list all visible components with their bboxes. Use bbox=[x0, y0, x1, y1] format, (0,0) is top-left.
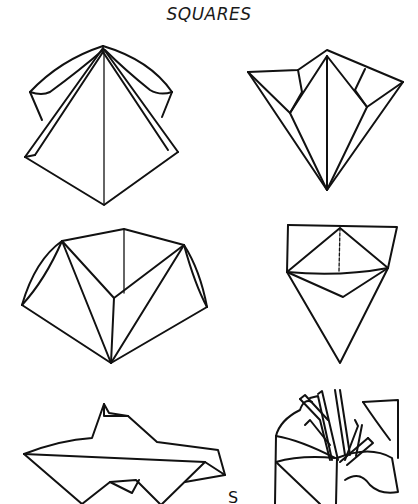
origami-diagrams bbox=[0, 0, 418, 504]
partial-label: S bbox=[228, 488, 238, 504]
figure-2-kite-fold bbox=[248, 50, 403, 190]
figure-5-boat-fold bbox=[24, 404, 225, 504]
figure-1-pyramid-fold bbox=[25, 46, 178, 205]
figure-4-triangle-band-fold bbox=[287, 225, 397, 363]
figure-3-pentagon-fold bbox=[22, 229, 207, 363]
figure-6-flower-fold bbox=[275, 390, 398, 504]
